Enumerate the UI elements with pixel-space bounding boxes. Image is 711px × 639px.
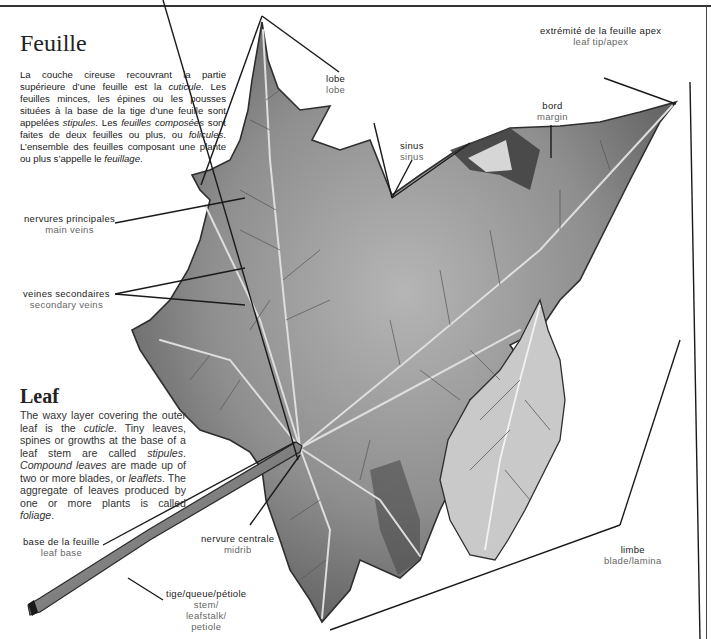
label-lobe-fr: lobe (326, 73, 345, 84)
label-secondary-veins: veines secondaires secondary veins (23, 288, 110, 310)
label-stem-en-2: leafstalk/ (166, 610, 246, 621)
english-title: Leaf (20, 385, 59, 408)
label-sinus-fr: sinus (400, 140, 424, 151)
label-stem-en-1: stem/ (166, 599, 246, 610)
label-midrib-en: midrib (201, 544, 274, 555)
label-stem: tige/queue/pétiole stem/ leafstalk/ peti… (166, 588, 246, 632)
label-main-veins-fr: nervures principales (24, 213, 115, 224)
french-paragraph: La couche cireuse recouvrant la partie s… (20, 69, 226, 165)
english-paragraph: The waxy layer covering the outer leaf i… (20, 409, 186, 522)
label-lobe-en: lobe (326, 84, 345, 95)
label-stem-fr: tige/queue/pétiole (166, 588, 246, 599)
label-apex: extrémité de la feuille apex leaf tip/ap… (540, 25, 661, 47)
label-leaf-base-fr: base de la feuille (23, 536, 100, 547)
french-title: Feuille (20, 30, 87, 57)
label-sinus-en: sinus (400, 151, 424, 162)
label-main-veins: nervures principales main veins (24, 213, 115, 235)
label-blade-en: blade/lamina (604, 555, 661, 566)
label-margin-fr: bord (537, 100, 568, 111)
label-apex-fr: extrémité de la feuille apex (540, 25, 661, 36)
label-leaf-base: base de la feuille leaf base (23, 536, 100, 558)
label-blade: limbe blade/lamina (604, 544, 661, 566)
label-leaf-base-en: leaf base (23, 547, 100, 558)
label-apex-en: leaf tip/apex (540, 36, 661, 47)
label-lobe: lobe lobe (326, 73, 345, 95)
label-midrib: nervure centrale midrib (201, 533, 274, 555)
label-secondary-veins-fr: veines secondaires (23, 288, 110, 299)
label-sinus: sinus sinus (400, 140, 424, 162)
label-midrib-fr: nervure centrale (201, 533, 274, 544)
label-stem-en-3: petiole (166, 621, 246, 632)
label-margin: bord margin (537, 100, 568, 122)
label-margin-en: margin (537, 111, 568, 122)
label-main-veins-en: main veins (24, 224, 115, 235)
label-blade-fr: limbe (604, 544, 661, 555)
label-secondary-veins-en: secondary veins (23, 299, 110, 310)
